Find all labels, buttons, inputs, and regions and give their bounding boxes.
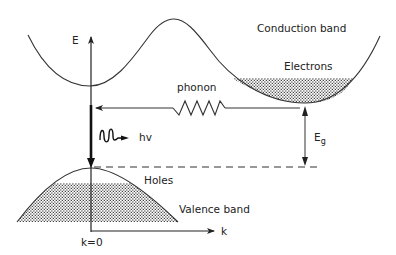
holes-label: Holes bbox=[144, 174, 173, 186]
bandgap-arrowhead-up bbox=[302, 106, 308, 116]
energy-axis-label: E bbox=[72, 34, 79, 46]
valence-band-label: Valence band bbox=[179, 203, 250, 215]
band-diagram: E k k=0 phonon hv Eg Conduction band Ele… bbox=[0, 0, 396, 255]
transition-arrowhead bbox=[87, 158, 95, 168]
electrons-fill bbox=[220, 78, 360, 108]
bandgap-arrowhead-down bbox=[302, 157, 308, 166]
conduction-band-label: Conduction band bbox=[257, 22, 346, 34]
origin-label: k=0 bbox=[81, 236, 103, 248]
electrons-label: Electrons bbox=[284, 60, 333, 72]
photon-label: hv bbox=[139, 131, 152, 143]
phonon-zigzag-icon bbox=[173, 101, 225, 115]
momentum-axis-label: k bbox=[221, 225, 228, 237]
phonon-label: phonon bbox=[177, 81, 216, 93]
photon-wave-icon bbox=[100, 129, 129, 142]
valence-fill bbox=[10, 183, 190, 223]
bandgap-label: Eg bbox=[314, 131, 326, 146]
